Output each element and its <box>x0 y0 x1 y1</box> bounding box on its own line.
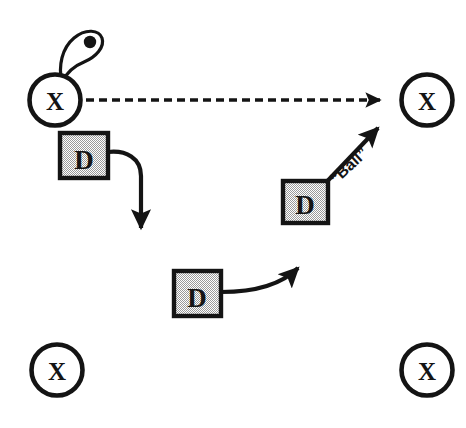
ball-label: “Ball” <box>326 144 371 187</box>
player-label: X <box>418 358 436 385</box>
player-label: X <box>46 88 64 115</box>
defense-player-d-center[interactable]: D <box>174 271 221 316</box>
ball-dot-icon <box>84 36 96 48</box>
player-label: X <box>48 358 66 385</box>
defender-center-path <box>221 268 298 292</box>
offense-player-x-top-right[interactable]: X <box>402 75 453 126</box>
defense-player-d-right[interactable]: D <box>283 181 328 223</box>
ball-label-text: “Ball” <box>326 144 371 187</box>
offense-player-x-bottom-left[interactable]: X <box>32 345 83 396</box>
player-label: X <box>418 88 436 115</box>
player-label: D <box>74 145 94 175</box>
offense-player-x-top-left[interactable]: X <box>30 75 81 126</box>
defense-player-d-upper-left[interactable]: D <box>60 133 108 178</box>
defender-hook-path <box>108 152 141 228</box>
player-label: D <box>187 283 207 313</box>
play-diagram: “Ball” X X X X D D D <box>0 0 466 428</box>
offense-player-x-bottom-right[interactable]: X <box>402 345 453 396</box>
play-diagram-canvas: “Ball” X X X X D D D <box>0 0 466 428</box>
player-label: D <box>295 190 315 220</box>
